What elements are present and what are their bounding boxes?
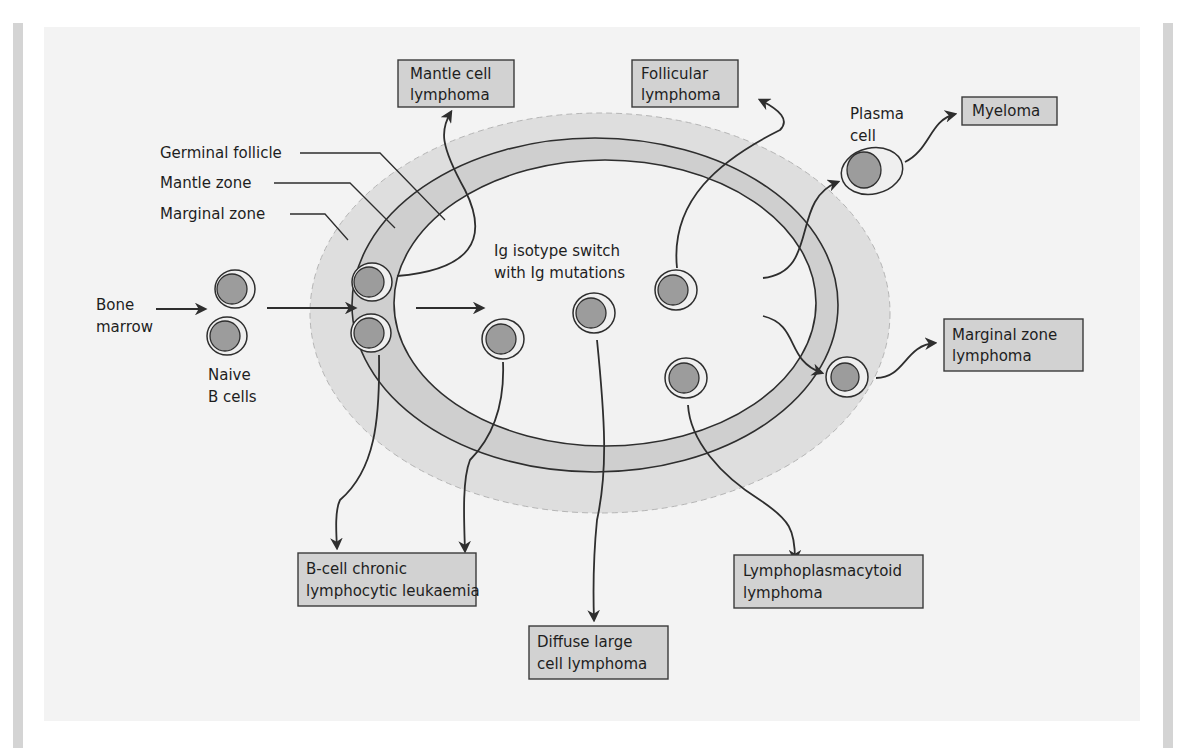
box-b-cell-cll: B-cell chronic lymphocytic leukaemia bbox=[298, 553, 480, 606]
box-follicular-line2: lymphoma bbox=[641, 86, 721, 104]
box-myeloma: Myeloma bbox=[962, 97, 1057, 125]
box-lymphoplasmacytoid-lymphoma: Lymphoplasmacytoid lymphoma bbox=[734, 555, 923, 608]
box-marginal-zone-line2: lymphoma bbox=[952, 347, 1032, 365]
plasma-cell-group: Plasma cell bbox=[837, 105, 907, 200]
label-germinal-follicle: Germinal follicle bbox=[160, 144, 282, 162]
label-bone-marrow-2: marrow bbox=[96, 318, 153, 336]
box-b-cell-cll-line2: lymphocytic leukaemia bbox=[306, 582, 480, 600]
box-myeloma-line1: Myeloma bbox=[972, 102, 1040, 120]
cell-naive-1 bbox=[215, 270, 255, 308]
box-diffuse-large-line1: Diffuse large bbox=[537, 633, 632, 651]
box-marginal-zone-line1: Marginal zone bbox=[952, 326, 1057, 344]
box-mantle-cell-line1: Mantle cell bbox=[410, 65, 492, 83]
cell-germinal-3 bbox=[655, 270, 697, 310]
lymphoma-diagram: Germinal follicle Mantle zone Marginal z… bbox=[0, 0, 1178, 748]
box-b-cell-cll-line1: B-cell chronic bbox=[306, 560, 407, 578]
box-marginal-zone-lymphoma: Marginal zone lymphoma bbox=[944, 319, 1083, 371]
label-plasma-2: cell bbox=[850, 127, 876, 145]
box-diffuse-large-cell-lymphoma: Diffuse large cell lymphoma bbox=[529, 626, 668, 679]
cell-germinal-2 bbox=[573, 293, 615, 333]
box-follicular-line1: Follicular bbox=[641, 65, 709, 83]
box-mantle-cell-lymphoma: Mantle cell lymphoma bbox=[398, 60, 514, 107]
label-naive-2: B cells bbox=[208, 388, 257, 406]
label-isotype-1: Ig isotype switch bbox=[494, 242, 620, 260]
box-lymphoplasmacytoid-line2: lymphoma bbox=[743, 584, 823, 602]
label-marginal-zone: Marginal zone bbox=[160, 205, 265, 223]
box-mantle-cell-line2: lymphoma bbox=[410, 86, 490, 104]
box-diffuse-large-line2: cell lymphoma bbox=[537, 655, 647, 673]
bone-marrow-source: Bone marrow bbox=[96, 296, 205, 336]
cell-marginal bbox=[826, 357, 868, 397]
box-lymphoplasmacytoid-line1: Lymphoplasmacytoid bbox=[743, 562, 902, 580]
cell-plasma bbox=[837, 142, 907, 200]
arrow-plasma-to-myeloma bbox=[905, 114, 955, 162]
cell-germinal-1 bbox=[482, 319, 524, 359]
cell-mantle-1 bbox=[352, 263, 392, 301]
label-bone-marrow-1: Bone bbox=[96, 296, 134, 314]
cell-germinal-4 bbox=[665, 358, 707, 398]
label-naive-1: Naive bbox=[208, 366, 251, 384]
label-plasma-1: Plasma bbox=[850, 105, 904, 123]
label-mantle-zone: Mantle zone bbox=[160, 174, 251, 192]
cell-mantle-2 bbox=[351, 314, 391, 352]
label-isotype-2: with Ig mutations bbox=[494, 264, 625, 282]
box-follicular-lymphoma: Follicular lymphoma bbox=[632, 60, 738, 107]
cell-naive-2 bbox=[207, 317, 247, 355]
